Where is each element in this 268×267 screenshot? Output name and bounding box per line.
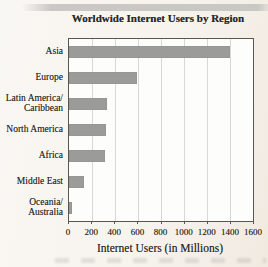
category-label-line: Oceania/ (29, 197, 63, 208)
category-label-latin-america-caribbean: Latin America/Caribbean (0, 90, 63, 116)
scan-artifact-bottom (55, 258, 266, 263)
bar-middle-east (69, 176, 84, 188)
tick-label-1200: 1200 (198, 227, 216, 237)
bar-europe (69, 72, 137, 84)
chart-title: Worldwide Internet Users by Region (60, 12, 256, 25)
tick-label-1000: 1000 (175, 227, 193, 237)
category-label-oceania-australia: Oceania/Australia (0, 194, 63, 220)
tick-label-1400: 1400 (221, 227, 239, 237)
x-axis-ticks: 02004006008001000120014001600 (68, 221, 253, 243)
category-label-north-america: North America (0, 116, 63, 142)
bar-band-asia (69, 39, 253, 65)
tick-mark-1400 (230, 221, 231, 224)
category-label-line: Africa (39, 150, 63, 161)
bar-band-middle-east (69, 169, 253, 195)
category-label-asia: Asia (0, 38, 63, 64)
bar-band-europe (69, 65, 253, 91)
bar-band-oceania-australia (69, 195, 253, 221)
tick-mark-1000 (184, 221, 185, 224)
category-label-line: Caribbean (24, 103, 63, 114)
category-label-line: Middle East (17, 176, 63, 187)
tick-label-600: 600 (131, 227, 145, 237)
bar-band-latin-america-caribbean (69, 91, 253, 117)
bar-band-africa (69, 143, 253, 169)
bar-north-america (69, 124, 106, 136)
scanned-chart-page: Worldwide Internet Users by Region AsiaE… (0, 0, 268, 267)
x-axis-label: Internet Users (in Millions) (58, 242, 262, 254)
category-label-europe: Europe (0, 64, 63, 90)
category-label-line: Latin America/ (6, 93, 63, 104)
tick-mark-800 (161, 221, 162, 224)
tick-mark-1200 (207, 221, 208, 224)
bar-latin-america-caribbean (69, 98, 107, 110)
category-label-line: Asia (46, 46, 63, 57)
category-label-line: North America (6, 124, 63, 135)
tick-mark-600 (137, 221, 138, 224)
tick-label-400: 400 (108, 227, 122, 237)
category-label-africa: Africa (0, 142, 63, 168)
tick-mark-400 (114, 221, 115, 224)
category-axis-labels: AsiaEuropeLatin America/CaribbeanNorth A… (0, 38, 63, 220)
scan-artifact-top (22, 4, 268, 11)
tick-label-0: 0 (66, 227, 71, 237)
tick-mark-0 (68, 221, 69, 224)
bar-asia (69, 46, 230, 58)
tick-mark-200 (91, 221, 92, 224)
plot-area (68, 38, 254, 222)
bar-oceania-australia (69, 202, 72, 214)
bar-band-north-america (69, 117, 253, 143)
bar-africa (69, 150, 105, 162)
category-label-line: Europe (36, 72, 63, 83)
tick-label-1600: 1600 (244, 227, 262, 237)
category-label-middle-east: Middle East (0, 168, 63, 194)
tick-label-800: 800 (154, 227, 168, 237)
category-label-line: Australia (28, 207, 63, 218)
tick-mark-1600 (253, 221, 254, 224)
tick-label-200: 200 (84, 227, 98, 237)
